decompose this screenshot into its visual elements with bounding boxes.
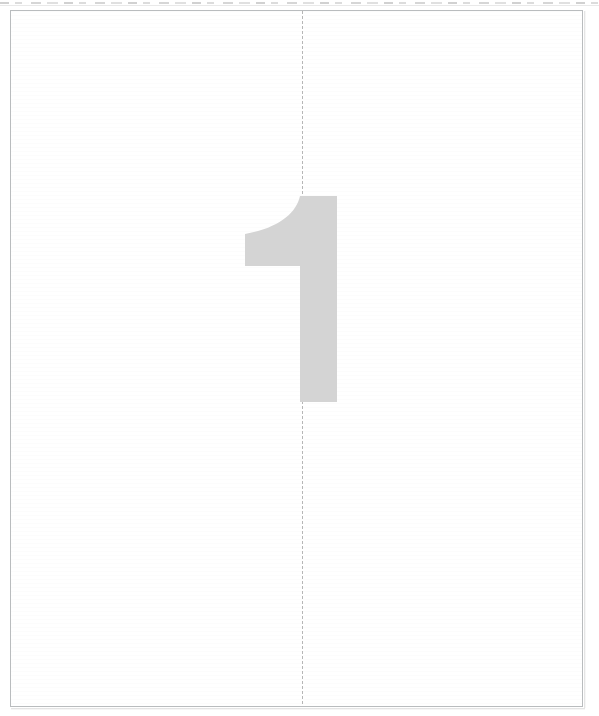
page-shadow-bottom — [11, 708, 585, 710]
page-caption: Blank scanned page with a large light gr… — [0, 0, 1, 1]
page-shadow-right — [584, 11, 586, 708]
numeral-one-glyph — [240, 196, 344, 402]
numeral-one-path — [245, 196, 337, 402]
top-edge-hairline — [0, 5, 599, 6]
top-edge-scan-artifact — [0, 2, 599, 4]
large-page-number-mark — [240, 196, 344, 402]
scanned-page-canvas: Blank scanned page with a large light gr… — [0, 0, 599, 716]
